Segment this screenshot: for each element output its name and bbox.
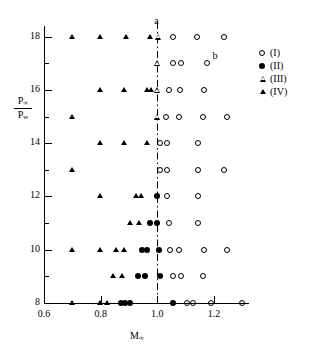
filled-triangle-icon <box>258 86 270 98</box>
data-point-I <box>208 300 214 306</box>
y-axis-tick <box>45 37 52 38</box>
y-axis-tick <box>45 303 52 304</box>
data-point-I <box>224 114 230 120</box>
data-point-I <box>195 140 201 146</box>
legend: (I)(II)(III)(IV) <box>258 45 287 97</box>
y-axis-label-numerator: P∞ <box>8 96 38 107</box>
data-point-II <box>135 273 141 279</box>
data-point-IV <box>97 140 103 145</box>
data-point-II <box>170 300 176 306</box>
data-point-IV <box>121 87 127 92</box>
data-point-I <box>195 167 201 173</box>
y-axis-tick <box>45 196 52 197</box>
legend-item-II: (II) <box>258 58 287 71</box>
data-point-IV <box>97 87 103 92</box>
data-point-I <box>200 114 206 120</box>
data-point-IV <box>97 34 103 39</box>
annotation-b: b <box>212 50 217 61</box>
x-axis-tick <box>214 296 215 303</box>
data-point-IV <box>69 247 75 252</box>
y-axis-tick <box>45 143 52 144</box>
data-point-IV <box>136 220 142 225</box>
data-point-I <box>157 167 163 173</box>
x-axis-label: M∞ <box>130 330 144 342</box>
x-axis-tick <box>44 296 45 303</box>
data-point-IV <box>121 247 127 252</box>
open-triangle-icon <box>258 73 270 85</box>
legend-item-III: (III) <box>258 71 287 84</box>
y-axis-tick <box>45 223 49 224</box>
x-axis-tick-label: 1.0 <box>143 308 171 319</box>
data-point-I <box>170 60 176 66</box>
y-axis-tick <box>45 117 49 118</box>
legend-item-label: (IV) <box>270 85 287 98</box>
data-point-I <box>239 300 245 306</box>
data-point-II <box>144 247 150 253</box>
y-axis-tick <box>45 170 49 171</box>
data-point-I <box>164 140 170 146</box>
data-point-IV <box>97 247 103 252</box>
data-point-III <box>154 60 160 66</box>
filled-circle-icon <box>258 60 270 72</box>
data-point-III <box>154 114 160 120</box>
data-point-I <box>170 34 176 40</box>
y-axis-tick <box>45 90 52 91</box>
data-point-II <box>156 247 162 253</box>
data-point-I <box>221 34 227 40</box>
y-axis-tick-label: 16 <box>22 83 40 94</box>
y-axis-label-denominator: Pw <box>8 110 38 121</box>
data-point-IV <box>113 247 119 252</box>
data-point-I <box>177 87 183 93</box>
y-axis-tick-label: 14 <box>22 136 40 147</box>
data-point-II <box>154 193 160 199</box>
data-point-I <box>200 273 206 279</box>
data-point-IV <box>138 193 144 198</box>
y-axis-label: P∞ Pw <box>8 96 38 122</box>
data-point-IV <box>147 34 153 39</box>
data-point-II <box>142 273 148 279</box>
y-axis-line <box>44 26 45 304</box>
data-point-I <box>178 60 184 66</box>
annotation-a: a <box>154 15 158 26</box>
data-point-I <box>163 114 169 120</box>
data-point-IV <box>144 140 150 145</box>
y-axis-tick-label: 10 <box>22 243 40 254</box>
y-axis-tick <box>45 250 52 251</box>
data-point-I <box>204 60 210 66</box>
y-axis-tick <box>45 276 49 277</box>
data-point-I <box>166 87 172 93</box>
x-axis-tick-label: 0.6 <box>30 308 58 319</box>
data-point-IV <box>104 300 110 305</box>
data-point-I <box>190 300 196 306</box>
data-point-II <box>147 220 153 226</box>
data-point-IV <box>69 114 75 119</box>
data-point-I <box>194 34 200 40</box>
data-point-I <box>195 220 201 226</box>
data-point-IV <box>69 300 75 305</box>
y-axis-tick-label: 8 <box>22 296 40 307</box>
data-point-I <box>221 167 227 173</box>
data-point-I <box>201 247 207 253</box>
x-axis-tick-label: 0.8 <box>87 308 115 319</box>
legend-item-I: (I) <box>258 45 287 58</box>
data-point-IV <box>127 220 133 225</box>
open-circle-icon <box>258 47 270 59</box>
data-point-I <box>166 220 172 226</box>
data-point-I <box>176 247 182 253</box>
data-point-I <box>176 114 182 120</box>
y-axis-label-fraction-bar <box>14 108 32 109</box>
data-point-IV <box>121 140 127 145</box>
data-point-II <box>157 273 163 279</box>
data-point-I <box>164 167 170 173</box>
y-axis-tick-label: 18 <box>22 30 40 41</box>
data-point-IV <box>110 273 116 278</box>
legend-item-IV: (IV) <box>258 84 287 97</box>
x-axis-tick-label: 1.2 <box>200 308 228 319</box>
data-point-III <box>155 34 161 40</box>
data-point-IV <box>69 34 75 39</box>
data-point-IV <box>123 34 129 39</box>
data-point-IV <box>69 167 75 172</box>
data-point-I <box>178 273 184 279</box>
data-point-I <box>224 247 230 253</box>
y-axis-tick <box>45 63 49 64</box>
